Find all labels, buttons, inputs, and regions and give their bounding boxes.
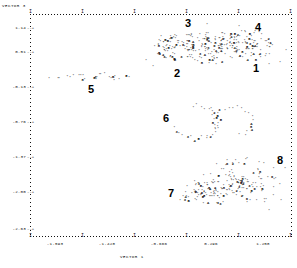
data-point: *	[268, 210, 270, 214]
data-point: *	[236, 51, 238, 55]
data-point: B	[261, 188, 263, 192]
x-tick-label: -1.428	[90, 242, 124, 246]
data-point: 3	[187, 136, 189, 140]
cluster-label-8: 8	[277, 155, 283, 166]
data-point: *	[244, 135, 246, 139]
data-point: *	[179, 46, 181, 50]
data-point: 2	[210, 136, 212, 140]
data-point: *	[208, 63, 210, 67]
data-point: *	[260, 39, 262, 43]
data-point: 8	[259, 171, 261, 175]
data-point: *	[69, 77, 71, 81]
plot-frame-right	[291, 14, 292, 236]
data-point: *	[272, 195, 274, 199]
data-point: *	[216, 58, 218, 62]
data-point: *	[207, 185, 209, 189]
data-point: *	[238, 43, 240, 47]
data-point: 3	[218, 109, 220, 113]
data-point: *	[232, 108, 234, 112]
data-point: *	[238, 163, 240, 167]
data-point: 2	[221, 61, 223, 65]
tick-mark-bottom: I	[289, 234, 292, 239]
data-point: *	[246, 158, 248, 162]
data-point: *	[172, 53, 174, 57]
data-point: *	[186, 186, 188, 190]
data-point: *	[48, 78, 50, 82]
tick-mark-bottom: I	[237, 234, 240, 239]
data-point: *	[203, 109, 205, 113]
data-point: *	[235, 160, 237, 164]
data-point: *	[190, 136, 192, 140]
data-point: *	[273, 187, 275, 191]
data-point: *	[241, 182, 243, 186]
tick-mark-bottom: I	[81, 234, 84, 239]
data-point: *	[203, 175, 205, 179]
data-point: *	[113, 80, 115, 84]
data-point: *	[231, 180, 233, 184]
data-point: *	[275, 178, 277, 182]
data-point: *	[212, 183, 214, 187]
data-point: *	[257, 169, 259, 173]
y-tick-label: 1.14	[0, 26, 26, 30]
data-point: *	[241, 31, 243, 35]
data-point: *	[187, 197, 189, 201]
data-point: B	[167, 40, 169, 44]
scatter-plot-canvas: VECTOR 3 VECTOR 1 I I I I I I I I I I I …	[0, 0, 297, 268]
data-point: *	[166, 51, 168, 55]
data-point: 4	[251, 129, 253, 133]
plot-frame-bottom	[30, 236, 292, 237]
data-point: *	[173, 59, 175, 63]
data-point: *	[160, 36, 162, 40]
data-point: *	[186, 35, 188, 39]
y-tick-label: -2.00	[0, 190, 26, 194]
data-point: 5	[218, 175, 220, 179]
data-point: *	[241, 57, 243, 61]
y-tick-mark: --+	[27, 85, 34, 89]
data-point: 4	[162, 54, 164, 58]
data-point: *	[261, 34, 263, 38]
data-point: *	[197, 61, 199, 65]
y-tick-mark: --+	[27, 190, 34, 194]
data-point: *	[181, 135, 183, 139]
data-point: *	[222, 169, 224, 173]
data-point: *	[199, 34, 201, 38]
data-point: B	[192, 46, 194, 50]
data-point: *	[268, 54, 270, 58]
data-point: *	[193, 192, 195, 196]
data-point: *	[210, 43, 212, 47]
cluster-label-6: 6	[163, 113, 169, 124]
data-point: *	[154, 46, 156, 50]
data-point: *	[247, 49, 249, 53]
cluster-label-7: 7	[168, 188, 174, 199]
y-tick-label: -0.13	[0, 85, 26, 89]
y-tick-label: -1.37	[0, 155, 26, 159]
data-point: *	[159, 54, 161, 58]
plot-frame-left	[30, 14, 31, 236]
data-point: *	[162, 42, 164, 46]
data-point: *	[235, 37, 237, 41]
data-point: *	[169, 56, 171, 60]
data-point: *	[231, 185, 233, 189]
data-point: *	[214, 39, 216, 43]
data-point: A	[204, 54, 206, 58]
data-point: *	[244, 32, 246, 36]
data-point: 3	[238, 186, 240, 190]
data-point: *	[280, 200, 282, 204]
data-point: *	[271, 45, 273, 49]
data-point: 5	[250, 190, 252, 194]
data-point: *	[206, 48, 208, 52]
data-point: *	[264, 56, 266, 60]
data-point: 3	[219, 203, 221, 207]
data-point: *	[241, 108, 243, 112]
data-point: *	[213, 193, 215, 197]
x-tick-label: 0.296	[194, 242, 228, 246]
data-point: 2	[268, 38, 270, 42]
data-point: *	[190, 36, 192, 40]
data-point: *	[252, 183, 254, 187]
data-point: *	[214, 128, 216, 132]
data-point: *	[266, 46, 268, 50]
data-point: *	[210, 108, 212, 112]
y-tick-label: -0.76	[0, 120, 26, 124]
y-tick-label: -2.63	[0, 227, 26, 231]
data-point: *	[263, 163, 265, 167]
